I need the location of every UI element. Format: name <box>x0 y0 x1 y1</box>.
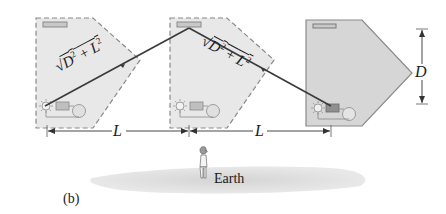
clock-position-2 <box>170 18 274 128</box>
counter-dial-icon <box>73 105 86 118</box>
clock-position-1 <box>36 18 140 128</box>
panel-label: (b) <box>63 191 79 207</box>
counter-dial-icon <box>343 108 356 121</box>
clock-body-outline <box>306 20 412 126</box>
dimension-L-left-label: L <box>113 122 122 140</box>
detector-icon <box>190 102 203 110</box>
mirror-icon <box>313 24 336 28</box>
dimension-D-label: D <box>415 63 427 81</box>
dimension-L-right-label: L <box>255 122 264 140</box>
mirror-icon <box>177 22 201 27</box>
detector-icon <box>56 102 69 110</box>
clock-body-outline <box>36 18 140 128</box>
earth-label: Earth <box>214 171 244 187</box>
clock-position-3 <box>306 20 412 126</box>
mirror-icon <box>43 22 67 27</box>
counter-dial-icon <box>207 105 220 118</box>
clock-body-outline <box>170 18 274 128</box>
